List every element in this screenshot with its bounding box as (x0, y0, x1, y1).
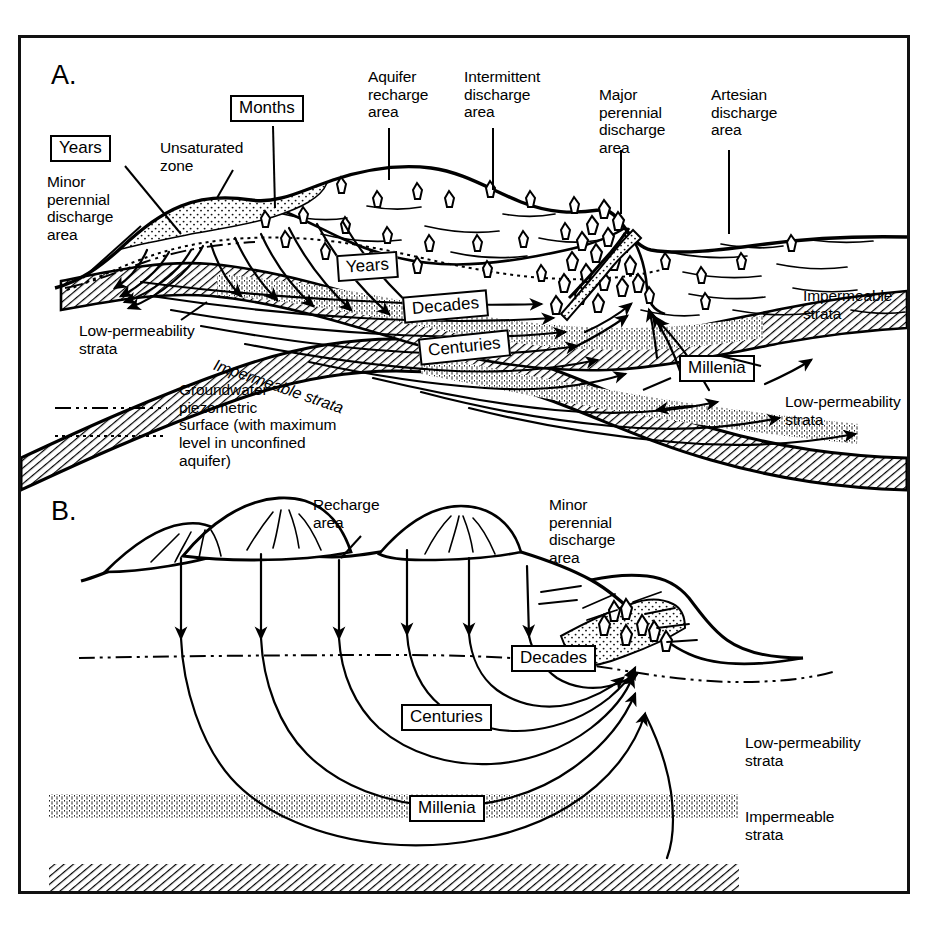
label-artesian-discharge-area: Artesian discharge area (711, 86, 777, 139)
time-box-years-lower[interactable]: Years (336, 251, 399, 282)
label-minor-perennial-discharge-area-a: Minor perennial discharge area (47, 173, 113, 243)
label-aquifer-recharge-area: Aquifer recharge area (368, 68, 428, 121)
time-box-years-upper[interactable]: Years (50, 135, 111, 162)
figure-frame: A. Minor perennial discharge area Unsatu… (18, 35, 910, 894)
panel-a-letter: A. (51, 60, 77, 91)
figure-root: A. Minor perennial discharge area Unsatu… (0, 0, 934, 929)
time-box-months[interactable]: Months (230, 95, 304, 122)
impermeable-band-b (49, 864, 739, 891)
time-box-millenia-b[interactable]: Millenia (409, 795, 485, 822)
vegetation-symbols-a (261, 177, 796, 309)
hill-mound-3-b (379, 506, 521, 560)
time-box-decades-b[interactable]: Decades (511, 645, 596, 672)
panel-b-drawing (49, 498, 833, 891)
panel-b-letter: B. (51, 496, 77, 527)
legend-line-symbols (53, 394, 173, 454)
legend-text-piezometric: Groundwater piezometric surface (with ma… (179, 381, 336, 434)
label-recharge-area-b: Recharge area (313, 496, 379, 531)
time-box-millenia[interactable]: Millenia (679, 355, 755, 382)
label-impermeable-strata-b: Impermeable strata (745, 808, 834, 843)
piezometric-surface-b (79, 655, 833, 682)
label-unsaturated-zone: Unsaturated zone (160, 139, 243, 174)
label-major-perennial-discharge-area: Major perennial discharge area (599, 86, 665, 156)
time-box-centuries-b[interactable]: Centuries (401, 704, 492, 731)
legend-text-unconfined: level in unconfined aquifer) (179, 434, 306, 469)
riparian-cluster-a (551, 200, 644, 314)
label-minor-perennial-discharge-area-b: Minor perennial discharge area (549, 496, 615, 566)
label-low-permeability-strata-b: Low-permeability strata (745, 734, 861, 769)
label-intermittent-discharge-area: Intermittent discharge area (464, 68, 540, 121)
label-impermeable-strata-a-right: Impermeable strata (803, 287, 892, 322)
low-permeability-band-b (49, 794, 739, 818)
label-low-permeability-strata-a-right: Low-permeability strata (785, 393, 901, 428)
label-low-permeability-strata-a-left: Low-permeability strata (79, 322, 195, 357)
